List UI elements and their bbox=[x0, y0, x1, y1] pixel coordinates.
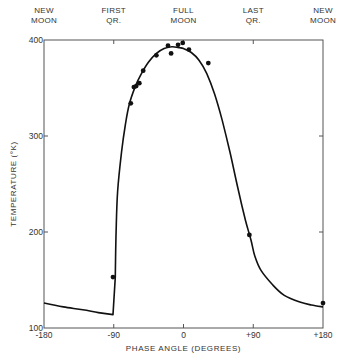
x-axis-ticks: -180-900+90+180 bbox=[35, 324, 332, 340]
data-point bbox=[128, 101, 133, 106]
y-axis-ticks: 100200300400 bbox=[29, 35, 323, 333]
y-tick-label: 300 bbox=[29, 131, 43, 141]
phase-label-line1: FIRST bbox=[101, 6, 126, 15]
x-axis-title: PHASE ANGLE (DEGREES) bbox=[126, 344, 241, 353]
data-point bbox=[176, 42, 181, 47]
observed-data-points bbox=[111, 40, 326, 305]
phase-label-line2: QR. bbox=[106, 16, 121, 25]
temperature-curve bbox=[44, 47, 323, 315]
x-tick-label: -90 bbox=[108, 330, 121, 340]
plot-frame bbox=[44, 40, 323, 328]
data-point bbox=[180, 40, 185, 45]
data-point bbox=[137, 81, 142, 86]
phase-label-line2: MOON bbox=[31, 16, 57, 25]
data-point bbox=[206, 61, 211, 66]
data-point bbox=[169, 51, 174, 56]
phase-label-line1: LAST bbox=[243, 6, 264, 15]
y-tick-label: 200 bbox=[29, 227, 43, 237]
phase-label-line2: MOON bbox=[310, 16, 336, 25]
data-point bbox=[247, 232, 252, 237]
y-tick-label: 400 bbox=[29, 35, 43, 45]
phase-label-line2: MOON bbox=[170, 16, 196, 25]
data-point bbox=[187, 47, 192, 52]
data-point bbox=[141, 68, 146, 73]
data-point bbox=[111, 275, 116, 280]
data-point bbox=[154, 53, 159, 58]
x-tick-label: +90 bbox=[246, 330, 261, 340]
lunar-phase-labels: NEWMOONFIRSTQR.FULLMOONLASTQR.NEWMOON bbox=[31, 6, 336, 44]
y-axis-title: TEMPERATURE (°K) bbox=[9, 141, 18, 227]
phase-temperature-chart: NEWMOONFIRSTQR.FULLMOONLASTQR.NEWMOON 10… bbox=[0, 0, 346, 359]
x-tick-label: -180 bbox=[35, 330, 52, 340]
x-tick-label: 0 bbox=[181, 330, 186, 340]
phase-label-line2: QR. bbox=[246, 16, 261, 25]
data-point bbox=[321, 301, 326, 306]
data-point bbox=[166, 43, 171, 48]
phase-label-line1: FULL bbox=[173, 6, 194, 15]
phase-label-line1: NEW bbox=[313, 6, 333, 15]
phase-label-line1: NEW bbox=[34, 6, 54, 15]
x-tick-label: +180 bbox=[313, 330, 332, 340]
